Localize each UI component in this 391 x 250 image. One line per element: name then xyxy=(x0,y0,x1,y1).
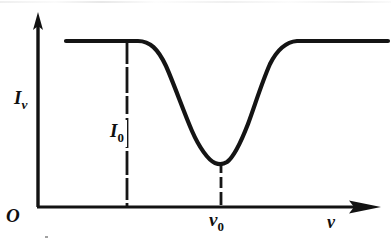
line-center-label-subscript: 0 xyxy=(217,219,223,234)
x-axis-label: ν xyxy=(327,213,335,231)
absorption-line-profile-figure: O Iν I0 ν0 ν xyxy=(0,0,391,250)
intensity-label-subscript: 0 xyxy=(117,130,123,145)
y-axis-label-subscript: ν xyxy=(21,97,27,112)
y-axis-label: Iν xyxy=(14,88,27,111)
intensity-continuum-label: I0 xyxy=(108,120,127,147)
origin-label: O xyxy=(6,206,20,225)
line-center-tick-label: ν0 xyxy=(209,210,224,234)
